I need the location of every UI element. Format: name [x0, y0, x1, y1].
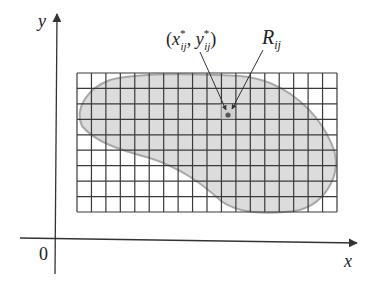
sample-point-label: (x*ij, y*ij) [166, 27, 216, 52]
r-subscript: ij [274, 38, 281, 52]
sample-point [225, 112, 230, 117]
y-star: y [194, 29, 204, 49]
x-star: x [171, 29, 180, 49]
origin-label: 0 [39, 244, 48, 264]
double-integral-region-diagram: y x 0 (x*ij, y*ij) Rij [0, 0, 381, 295]
comma: , [187, 29, 196, 49]
y-axis [55, 14, 57, 274]
close-paren: ) [210, 29, 216, 50]
y-star-superscript: * [204, 27, 210, 39]
x-axis-label: x [343, 251, 352, 271]
region-d [80, 74, 336, 212]
subrectangle-label: Rij [261, 26, 282, 52]
r-main: R [261, 26, 274, 48]
x-star-superscript: * [180, 27, 186, 39]
y-axis-label: y [36, 11, 46, 31]
x-axis [20, 238, 357, 243]
